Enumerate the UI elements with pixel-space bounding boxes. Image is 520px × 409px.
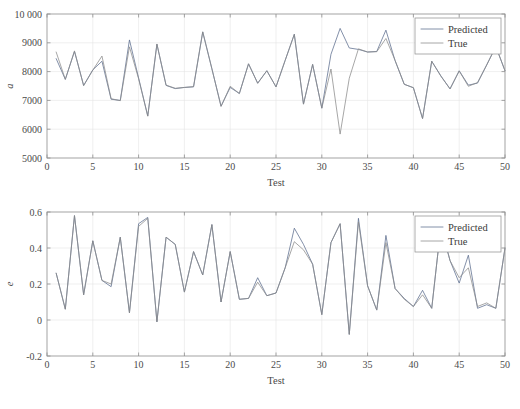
y-axis-title: a: [4, 83, 15, 88]
x-tick-label: 25: [271, 161, 281, 172]
x-tick-label: 15: [179, 161, 189, 172]
legend-label: True: [448, 38, 468, 49]
y-tick-label: 10 000: [15, 9, 43, 20]
x-tick-label: 0: [45, 359, 50, 370]
y-tick-label: 6000: [22, 124, 42, 135]
x-tick-label: 50: [500, 359, 510, 370]
legend-label: Predicted: [448, 24, 488, 35]
y-tick-label: 9000: [22, 37, 42, 48]
legend-label: True: [448, 236, 468, 247]
y-tick-label: 8000: [22, 66, 42, 77]
x-tick-label: 10: [134, 359, 144, 370]
y-tick-label: 0.6: [30, 207, 43, 218]
x-tick-label: 50: [500, 161, 510, 172]
chart-panel-bottom: 05101520253035404550-0.200.20.40.6TesteP…: [0, 200, 520, 409]
x-tick-label: 5: [90, 161, 95, 172]
x-tick-label: 45: [454, 359, 464, 370]
y-axis-title: e: [4, 281, 15, 286]
x-tick-label: 20: [225, 161, 235, 172]
x-tick-label: 25: [271, 359, 281, 370]
x-tick-label: 45: [454, 161, 464, 172]
x-axis-title: Test: [267, 375, 284, 386]
x-tick-label: 35: [363, 359, 373, 370]
x-tick-label: 15: [179, 359, 189, 370]
chart-panel-top: 0510152025303540455050006000700080009000…: [0, 0, 520, 200]
y-tick-label: 7000: [22, 95, 42, 106]
y-tick-label: -0.2: [26, 351, 42, 362]
x-tick-label: 30: [317, 161, 327, 172]
x-tick-label: 0: [45, 161, 50, 172]
x-tick-label: 40: [408, 359, 418, 370]
y-tick-label: 0.4: [30, 243, 43, 254]
y-tick-label: 0.2: [30, 279, 43, 290]
x-axis-title: Test: [267, 177, 284, 188]
x-tick-label: 20: [225, 359, 235, 370]
legend-label: Predicted: [448, 222, 488, 233]
x-tick-label: 40: [408, 161, 418, 172]
figure-container: 0510152025303540455050006000700080009000…: [0, 0, 520, 409]
y-tick-label: 0: [37, 315, 42, 326]
x-tick-label: 35: [363, 161, 373, 172]
line-chart-bottom: 05101520253035404550-0.200.20.40.6TesteP…: [0, 200, 520, 409]
x-tick-label: 10: [134, 161, 144, 172]
line-chart-top: 0510152025303540455050006000700080009000…: [0, 0, 520, 200]
x-tick-label: 5: [90, 359, 95, 370]
x-tick-label: 30: [317, 359, 327, 370]
y-tick-label: 5000: [22, 153, 42, 164]
